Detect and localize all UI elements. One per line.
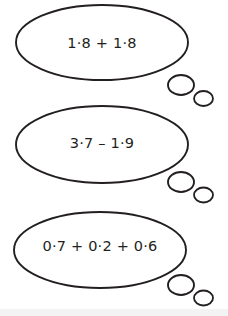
thought-bubble-1	[16, 5, 213, 106]
bubble-2-tail-circle-small	[194, 188, 213, 203]
bubble-2-tail-circle-large	[168, 172, 194, 192]
bubble-1-tail-circle-large	[168, 75, 194, 95]
bubble-1-expression: 1·8 + 1·8	[67, 36, 136, 51]
thought-bubble-2	[16, 106, 213, 203]
thought-bubble-3	[14, 212, 213, 306]
bubble-1-tail-circle-small	[194, 91, 213, 106]
bubble-3-tail-circle-small	[194, 291, 213, 306]
bubble-2-expression: 3·7 – 1·9	[70, 136, 134, 151]
page-bottom-band	[0, 309, 228, 316]
bubble-3-tail-circle-large	[168, 275, 194, 295]
bubble-3-expression: 0·7 + 0·2 + 0·6	[43, 239, 158, 254]
worksheet-canvas: 1·8 + 1·8 3·7 – 1·9 0·7 + 0·2 + 0·6	[0, 0, 228, 316]
